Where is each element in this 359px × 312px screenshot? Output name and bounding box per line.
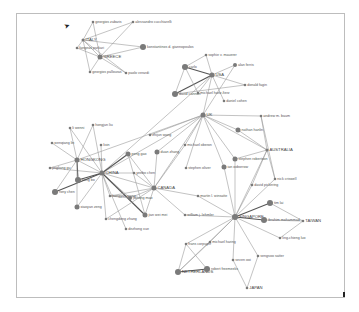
graph-node-andrew[interactable]: andrew m. baum (260, 114, 290, 118)
graph-node-daniel[interactable]: daniel cohen (223, 99, 247, 103)
graph-node-sengsoo[interactable]: sengsoo satter (257, 254, 285, 258)
node-dot[interactable] (201, 113, 206, 118)
node-dot[interactable] (75, 158, 80, 163)
graph-node-singapore[interactable]: SINGAPORE (232, 214, 264, 220)
graph-node-wenqiang[interactable]: wenqiang lin (51, 141, 75, 145)
node-dot[interactable] (257, 255, 260, 258)
graph-node-frans[interactable]: frans corpuyer (185, 242, 212, 246)
node-dot[interactable] (52, 189, 58, 195)
node-dot[interactable] (236, 128, 241, 133)
node-dot[interactable] (222, 165, 227, 170)
node-dot[interactable] (49, 167, 52, 170)
node-dot[interactable] (184, 214, 187, 217)
node-dot[interactable] (266, 149, 269, 152)
node-dot[interactable] (126, 152, 131, 157)
node-dot[interactable] (75, 177, 81, 183)
node-dot[interactable] (155, 150, 160, 155)
node-dot[interactable] (132, 21, 135, 24)
graph-node-stephen_oliver[interactable]: stephen oliver (185, 166, 212, 170)
node-dot[interactable] (204, 266, 210, 272)
node-dot[interactable] (210, 73, 215, 78)
node-dot[interactable] (244, 84, 247, 87)
node-dot[interactable] (172, 91, 178, 97)
node-dot[interactable] (209, 241, 212, 244)
node-dot[interactable] (279, 237, 282, 240)
node-dot[interactable] (232, 259, 235, 262)
graph-node-tim[interactable]: tim lai (267, 200, 284, 206)
node-dot[interactable] (133, 172, 136, 175)
graph-node-hongjun[interactable]: hongjun liu (92, 123, 113, 127)
graph-node-greece[interactable]: GREECE (98, 54, 122, 59)
node-dot[interactable] (100, 144, 103, 147)
node-dot[interactable] (149, 134, 152, 137)
node-dot[interactable] (246, 287, 249, 290)
graph-node-michael_oberon[interactable]: michael oberon (184, 143, 212, 147)
graph-node-duan_zhang[interactable]: duan zhang (155, 150, 180, 155)
node-dot[interactable] (197, 195, 200, 198)
graph-node-william[interactable]: william j. lehmler (184, 213, 215, 217)
graph-node-usa[interactable]: USA (210, 72, 225, 77)
graph-node-zhijun_wang[interactable]: zhijun wang (149, 133, 172, 137)
graph-node-paolo[interactable]: paolo verardi (125, 71, 150, 75)
graph-node-alan[interactable]: alan ferris (233, 63, 254, 67)
graph-node-dezhong[interactable]: dezhong xue (125, 227, 149, 231)
graph-node-hongkong[interactable]: HONGKONG (75, 157, 106, 162)
node-dot[interactable] (75, 205, 80, 210)
node-dot[interactable] (233, 63, 237, 67)
graph-node-kong_bo[interactable]: kong bo (75, 177, 95, 183)
node-dot[interactable] (185, 243, 188, 246)
node-dot[interactable] (143, 213, 148, 218)
graph-node-georgios_zabaris[interactable]: georgios zabaris (92, 20, 122, 24)
graph-node-uk[interactable]: UK (201, 112, 213, 117)
graph-node-chengdong[interactable]: chengdong zhang (105, 217, 137, 221)
graph-node-nathan[interactable]: nathan hanlin (236, 128, 264, 133)
graph-node-jingliang[interactable]: jingliang gu (49, 166, 71, 170)
graph-node-alessandro[interactable]: alessandro cucchiarelli (132, 20, 172, 24)
node-dot[interactable] (267, 200, 273, 206)
node-dot[interactable] (125, 228, 128, 231)
node-dot[interactable] (125, 72, 128, 75)
graph-node-china[interactable]: CHINA (100, 170, 119, 175)
node-dot[interactable] (92, 21, 95, 24)
graph-node-yeebo[interactable]: yeebo chen (133, 171, 155, 175)
graph-node-taiwan[interactable]: TAIWAN (302, 218, 321, 223)
graph-node-australia[interactable]: AUSTRALIA (266, 147, 293, 152)
node-dot[interactable] (185, 167, 188, 170)
graph-node-ian_oxborrow[interactable]: ian oxborrow (222, 165, 249, 170)
graph-node-seven_ooi[interactable]: seven ooi (232, 258, 251, 262)
graph-node-japan[interactable]: JAPAN (246, 285, 263, 290)
node-dot[interactable] (184, 144, 187, 147)
graph-node-martin[interactable]: martin l. winsatte (197, 194, 228, 198)
node-dot[interactable] (261, 217, 267, 223)
node-dot[interactable] (98, 55, 103, 60)
node-dot[interactable] (233, 157, 238, 162)
node-dot[interactable] (152, 186, 157, 191)
node-dot[interactable] (76, 47, 79, 50)
graph-node-sophie[interactable]: sophie v. mauerer (205, 53, 238, 57)
graph-node-rony_chen[interactable]: rony chen (52, 189, 75, 195)
node-dot[interactable] (175, 269, 181, 275)
node-dot[interactable] (69, 127, 72, 130)
node-dot[interactable] (89, 71, 92, 74)
node-dot[interactable] (128, 196, 132, 200)
graph-node-david_cannon[interactable]: david cannon (172, 91, 200, 97)
graph-node-stephen_robertson[interactable]: stephen robertson (233, 157, 268, 162)
node-dot[interactable] (205, 54, 208, 57)
graph-node-nick[interactable]: nick criswell (274, 177, 297, 181)
node-dot[interactable] (182, 64, 188, 70)
graph-node-donald[interactable]: donald fagin (244, 83, 267, 87)
node-dot[interactable] (274, 178, 277, 181)
graph-node-xiaoyan[interactable]: xiaoyan zeng (75, 205, 102, 210)
graph-node-fangeas[interactable]: fangeas parkari (76, 46, 105, 50)
graph-node-peng[interactable]: peng gao (126, 152, 147, 157)
graph-node-jian_wei[interactable]: jian wei mei (143, 213, 168, 218)
node-dot[interactable] (109, 195, 112, 198)
node-dot[interactable] (100, 171, 105, 176)
node-dot[interactable] (197, 92, 200, 95)
graph-node-ling[interactable]: ling-chieng luo (279, 236, 306, 240)
graph-node-georgios_pallouras[interactable]: georgios pallouras (89, 70, 122, 74)
graph-node-carlo[interactable]: carlo (182, 64, 197, 70)
node-dot[interactable] (251, 184, 254, 187)
node-dot[interactable] (260, 115, 263, 118)
graph-node-michael_haring[interactable]: michael haring (209, 240, 236, 244)
